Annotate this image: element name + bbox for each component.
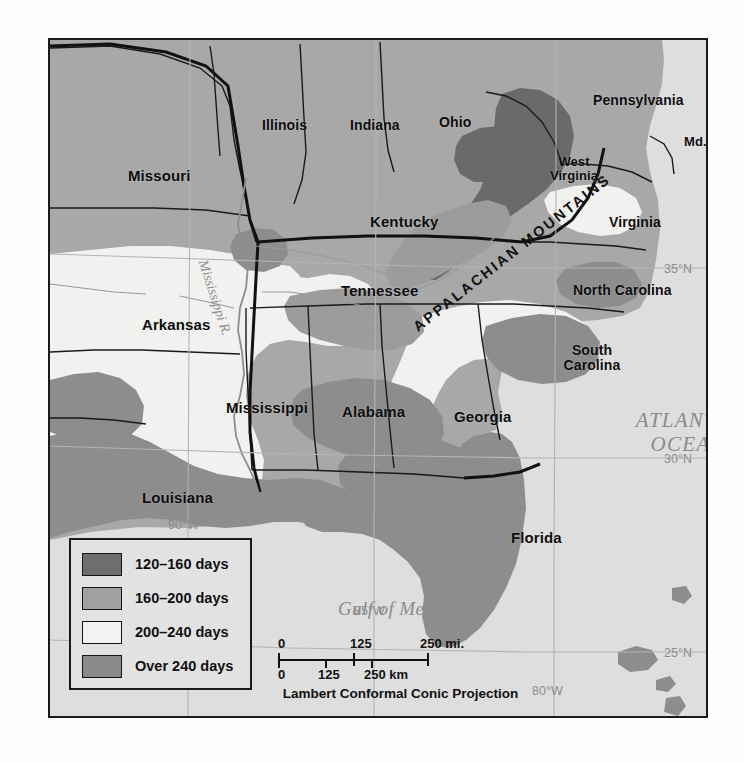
- scale-miles-max: 250 mi.: [420, 636, 464, 651]
- graticule-label-25n: 25°N: [664, 646, 692, 660]
- legend-swatch-200-240: [82, 621, 122, 644]
- state-label-alabama: Alabama: [342, 404, 405, 420]
- scale-km-zero: 0: [278, 667, 285, 682]
- state-label-missouri: Missouri: [128, 168, 190, 184]
- state-label-ohio: Ohio: [439, 115, 471, 130]
- state-label-florida: Florida: [511, 530, 562, 546]
- state-label-louisiana: Louisiana: [142, 490, 213, 506]
- legend-swatch-160-200: [82, 587, 122, 610]
- legend-swatch-over-240: [82, 655, 122, 678]
- scale-km-max: 250 km: [364, 667, 408, 682]
- state-label-illinois: Illinois: [262, 118, 307, 133]
- scale-miles-numbers: 0 125 250 mi.: [278, 636, 523, 651]
- scale-miles-zero: 0: [278, 636, 285, 651]
- projection-label: Lambert Conformal Conic Projection: [278, 686, 523, 701]
- state-label-virginia: Virginia: [609, 215, 661, 230]
- legend-item-120-160: 120–160 days: [82, 547, 250, 581]
- state-label-kentucky: Kentucky: [370, 214, 438, 230]
- scale-bar-graphic: [278, 653, 523, 666]
- state-label-north-carolina: North Carolina: [573, 283, 672, 298]
- scale-tick-mi-250: [427, 653, 429, 666]
- legend-item-160-200: 160–200 days: [82, 581, 250, 615]
- graticule-label-90w: 90°W: [168, 518, 199, 532]
- graticule-label-80w: 80°W: [532, 684, 563, 698]
- legend-item-200-240: 200–240 days: [82, 615, 250, 649]
- scale-miles-mid: 125: [350, 636, 372, 651]
- state-label-south-carolina-text: South Carolina: [553, 343, 631, 372]
- legend-label-200-240: 200–240 days: [135, 624, 229, 640]
- state-label-georgia: Georgia: [454, 409, 511, 425]
- scale-km-numbers: 0 125 250 km: [278, 667, 523, 682]
- atlantic-ocean-label: ATLANTIC OCEAN: [628, 408, 708, 456]
- atlantic-ocean-line1: ATLANTIC: [628, 408, 708, 432]
- state-label-mississippi: Mississippi: [226, 400, 308, 416]
- scale-tick-mi-125: [353, 653, 355, 666]
- state-label-maryland: Md.: [684, 135, 707, 149]
- map-page: Missouri Illinois Indiana Ohio Pennsylva…: [0, 0, 744, 763]
- legend-label-120-160: 120–160 days: [135, 556, 229, 572]
- state-label-pennsylvania: Pennsylvania: [593, 93, 684, 108]
- graticule-label-30n: 30°N: [664, 452, 692, 466]
- legend-label-over-240: Over 240 days: [135, 658, 233, 674]
- state-label-tennessee: Tennessee: [341, 283, 418, 299]
- legend-item-over-240: Over 240 days: [82, 649, 250, 683]
- graticule-label-85w: 85°W: [354, 604, 385, 618]
- state-label-arkansas: Arkansas: [142, 317, 210, 333]
- legend-label-160-200: 160–200 days: [135, 590, 229, 606]
- scale-km-mid: 125: [318, 667, 340, 682]
- graticule-label-35n: 35°N: [664, 262, 692, 276]
- scale-bar: 0 125 250 mi. 0 125 250 km Lambert Confo…: [278, 636, 523, 701]
- legend-box: 120–160 days 160–200 days 200–240 days O…: [69, 538, 252, 690]
- legend-swatch-120-160: [82, 553, 122, 576]
- state-label-indiana: Indiana: [350, 118, 400, 133]
- state-label-south-carolina: South Carolina: [553, 343, 631, 372]
